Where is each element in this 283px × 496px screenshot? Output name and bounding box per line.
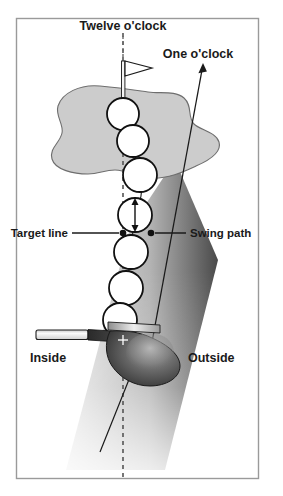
golf-swing-diagram: Twelve o'clock One o'clock Target line S…	[0, 0, 283, 496]
club-shaft	[36, 330, 88, 340]
club-head-highlight	[126, 333, 174, 371]
target-line-callout	[72, 230, 126, 237]
ball-2	[117, 125, 149, 157]
label-twelve-oclock: Twelve o'clock	[80, 19, 167, 33]
ball-5	[114, 235, 148, 269]
label-outside: Outside	[188, 351, 235, 365]
ball-6	[109, 271, 143, 305]
swing-path-anchor-dot	[148, 230, 155, 237]
target-line-anchor-dot	[120, 230, 127, 237]
label-one-oclock: One o'clock	[163, 47, 233, 61]
ball-3	[123, 158, 157, 192]
diagram-canvas: Twelve o'clock One o'clock Target line S…	[0, 0, 283, 496]
label-target-line: Target line	[11, 227, 68, 239]
label-inside: Inside	[30, 351, 66, 365]
label-swing-path: Swing path	[190, 227, 251, 239]
